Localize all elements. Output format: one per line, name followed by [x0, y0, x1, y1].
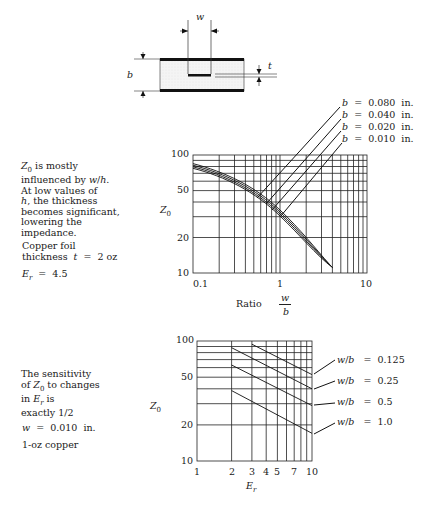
legend-wb-0.25: w/b = 0.25w/b = 0.25	[337, 376, 399, 387]
bottom-xlabel: Er	[246, 481, 256, 495]
bottom-ytick-20: 20	[181, 419, 193, 430]
bottom-note: The sensitivity of Z0 to changes in Er i…	[21, 369, 100, 419]
bottom-xtick-4: 4	[263, 466, 269, 477]
bottom-xtick-7: 7	[291, 466, 297, 477]
copper-oz-note: 1-oz copper	[22, 440, 78, 451]
bottom-ytick-100: 100	[176, 334, 194, 345]
bottom-ylabel: Z0	[150, 401, 161, 415]
bottom-xtick-5: 5	[274, 466, 280, 477]
bottom-xtick-2: 2	[229, 466, 235, 477]
bottom-xtick-1: 1	[194, 466, 200, 477]
bottom-ytick-50: 50	[181, 371, 193, 382]
sens-line-2: of Z0 to changes	[21, 380, 100, 394]
legend-wb-1.0: w/b = 1.0w/b = 1.0	[337, 417, 393, 428]
sens-line-3: in Er is	[21, 394, 100, 408]
bottom-xtick-10: 10	[306, 466, 318, 477]
legend-wb-0.125: w/b = 0.125w/b = 0.125	[337, 355, 405, 366]
w-note: w = 0.010 in.	[22, 423, 96, 434]
bottom-ytick-10: 10	[181, 455, 193, 466]
bottom-xtick-3: 3	[249, 466, 255, 477]
sens-line-4: exactly 1/2	[21, 408, 100, 419]
legend-wb-0.5: w/b = 0.5w/b = 0.5	[337, 397, 393, 408]
bottom-chart	[0, 0, 426, 510]
